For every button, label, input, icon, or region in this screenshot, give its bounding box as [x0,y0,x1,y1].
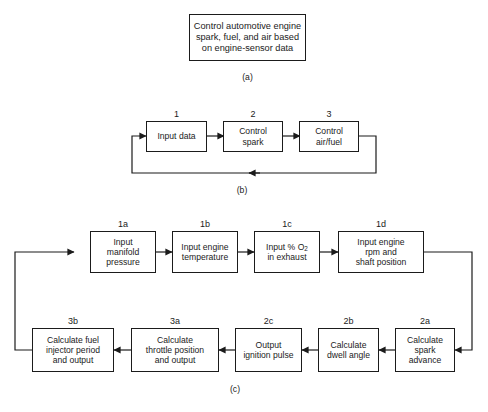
caption-part-c: (c) [185,385,285,394]
caption-part-b: (b) [192,186,292,195]
step-tag-b-3: 3 [299,110,359,119]
node-c-calculate-dwell-angle: Calculate dwell angle [318,328,379,372]
step-tag-c-2a: 2a [395,317,455,326]
node-c-calculate-throttle-position: Calculate throttle position and output [131,328,219,372]
node-b-control-spark-label: Control spark [237,126,269,146]
node-c-input-rpm-shaft-position: Input engine rpm and shaft position [338,231,424,273]
node-c-output-ignition-pulse: Output ignition pulse [235,328,302,372]
step-tag-c-1c: 1c [254,220,320,229]
node-c-calculate-throttle-position-label: Calculate throttle position and output [144,335,206,365]
node-c-input-engine-temperature: Input engine temperature [172,231,238,273]
caption-part-a: (a) [189,73,306,82]
node-part-a-objective-label: Control automotive engine spark, fuel, a… [192,21,303,54]
node-c-input-oxygen-exhaust-text-main: Input % O [266,242,304,252]
node-c-calculate-spark-advance-label: Calculate spark advance [396,335,454,365]
step-tag-c-3b: 3b [32,317,114,326]
node-b-control-spark: Control spark [223,121,283,152]
step-tag-b-2: 2 [223,110,283,119]
step-tag-c-2c: 2c [235,317,302,326]
node-b-control-air-fuel: Control air/fuel [299,121,359,152]
node-c-calculate-fuel-injector-period-label: Calculate fuel injector period and outpu… [44,335,102,365]
node-c-input-manifold-pressure: Input manifold pressure [90,231,156,273]
node-c-output-ignition-pulse-label: Output ignition pulse [241,340,295,360]
step-tag-c-1b: 1b [172,220,238,229]
step-tag-c-1d: 1d [338,220,424,229]
node-b-control-air-fuel-label: Control air/fuel [313,126,345,146]
node-c-calculate-dwell-angle-label: Calculate dwell angle [325,340,372,360]
node-c-calculate-fuel-injector-period: Calculate fuel injector period and outpu… [32,328,114,372]
step-tag-c-2b: 2b [318,317,379,326]
node-c-input-rpm-shaft-position-label: Input engine rpm and shaft position [354,237,409,267]
step-tag-c-3a: 3a [131,317,219,326]
node-b-input-data-label: Input data [155,131,197,141]
node-b-input-data: Input data [146,121,207,152]
node-c-input-oxygen-exhaust-text-tail: in exhaust [267,252,306,262]
node-part-a-objective: Control automotive engine spark, fuel, a… [189,14,306,61]
node-c-input-oxygen-exhaust: Input % O2 in exhaust [254,231,320,273]
node-c-input-oxygen-exhaust-label: Input % O2 in exhaust [264,242,310,262]
node-c-input-engine-temperature-label: Input engine temperature [179,242,230,262]
node-c-calculate-spark-advance: Calculate spark advance [395,328,455,372]
flowchart-diagram: Control automotive engine spark, fuel, a… [0,0,488,412]
step-tag-b-1: 1 [146,110,207,119]
node-c-input-manifold-pressure-label: Input manifold pressure [104,237,141,267]
step-tag-c-1a: 1a [90,220,156,229]
